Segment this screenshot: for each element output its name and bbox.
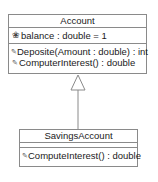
operation-text: ComputerInterest() : double <box>19 57 135 68</box>
operation-row[interactable]: ✎ ComputerInterest() : double <box>11 57 146 68</box>
attribute-row[interactable]: ❀ balance : double = 1 <box>11 30 146 41</box>
operation-row[interactable]: ✎ ComputeInterest() : double <box>22 150 137 161</box>
attribute-text: balance : double = 1 <box>21 30 107 41</box>
operation-text: Deposite(Amount : double) : int <box>17 46 148 57</box>
operations-compartment: ✎ ComputeInterest() : double <box>20 148 137 161</box>
class-name: SavingsAccount <box>20 130 137 143</box>
class-name: Account <box>9 15 146 28</box>
class-savingsaccount[interactable]: SavingsAccount ✎ ComputeInterest() : dou… <box>19 129 138 167</box>
operation-icon: ✎ <box>11 57 19 68</box>
operation-row[interactable]: ✎ Deposite(Amount : double) : int <box>11 46 146 57</box>
attribute-icon: ❀ <box>11 30 21 41</box>
attributes-compartment: ❀ balance : double = 1 <box>9 28 146 44</box>
operation-text: ComputeInterest() : double <box>28 150 141 161</box>
operations-compartment: ✎ Deposite(Amount : double) : int ✎ Comp… <box>9 44 146 68</box>
class-account[interactable]: Account ❀ balance : double = 1 ✎ Deposit… <box>8 14 147 74</box>
